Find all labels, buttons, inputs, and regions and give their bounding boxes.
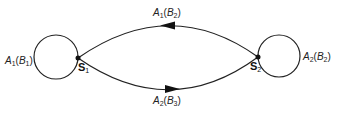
action-sub: 1 (12, 60, 16, 67)
state-sub: 1 (85, 67, 89, 74)
param-sub: 3 (174, 100, 178, 107)
self-loop-label-s2: A2(B2) (303, 52, 331, 63)
action-sub: 2 (310, 56, 314, 63)
action: A (153, 7, 160, 18)
action-sub: 2 (160, 100, 164, 107)
action-sub: 1 (160, 12, 164, 19)
param: B (167, 95, 174, 106)
param: B (19, 55, 26, 66)
self-loop-s1 (34, 35, 78, 79)
edge-label-s1-to-s2: A2(B3) (153, 96, 181, 107)
state-sub: 2 (257, 66, 261, 73)
state-node-s1 (76, 56, 81, 61)
edge-s1-to-s2 (78, 57, 258, 90)
state-label-s2: S2 (250, 61, 261, 73)
param-sub: 2 (174, 12, 178, 19)
param-sub: 2 (324, 56, 328, 63)
action: A (153, 95, 160, 106)
arrowhead-left-icon (160, 22, 175, 30)
state-node-s2 (256, 55, 261, 60)
action: A (303, 51, 310, 62)
self-loop-label-s1: A1(B1) (5, 56, 33, 67)
param-sub: 1 (26, 60, 30, 67)
edge-label-s2-to-s1: A1(B2) (153, 8, 181, 19)
edge-s2-to-s1 (78, 26, 258, 58)
state-label-s1: S1 (78, 62, 89, 74)
action: A (5, 55, 12, 66)
param: B (167, 7, 174, 18)
arrowhead-right-icon (165, 85, 180, 93)
param: B (317, 51, 324, 62)
self-loop-s2 (258, 35, 300, 77)
